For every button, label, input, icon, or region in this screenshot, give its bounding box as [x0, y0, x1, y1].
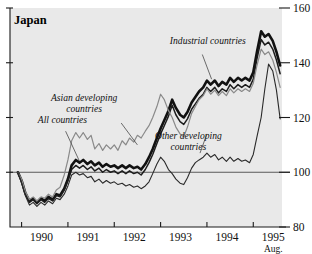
x-tick-label: 1990	[30, 231, 53, 243]
annotation-industrial-countries: Industrial countries	[169, 35, 246, 46]
x-tick-label: 1991	[76, 231, 99, 243]
y-tick-label: 140	[293, 57, 311, 69]
chart-canvas: 80100120140160 199019911992199319941995A…	[0, 0, 312, 254]
x-axis-end-note: Aug.	[264, 244, 283, 254]
y-tick-label: 120	[293, 112, 311, 124]
x-tick-label: 1994	[215, 231, 238, 243]
y-tick-label: 100	[293, 166, 311, 178]
x-axis-labels: 199019911992199319941995Aug.	[30, 231, 285, 254]
y-tick-label: 80	[293, 221, 305, 233]
page-title: Japan	[14, 13, 47, 27]
x-tick-label: 1993	[169, 231, 192, 243]
x-tick-label: 1995	[262, 231, 285, 243]
x-tick-label: 1992	[123, 231, 146, 243]
y-axis-labels: 80100120140160	[293, 2, 311, 233]
annotation-all-countries: All countries	[37, 114, 88, 125]
japan-exchange-rate-chart: 80100120140160 199019911992199319941995A…	[0, 0, 312, 254]
y-tick-label: 160	[293, 2, 311, 14]
